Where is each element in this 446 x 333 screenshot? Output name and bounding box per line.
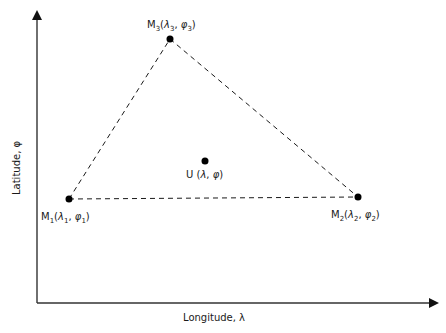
- x-axis-label: Longitude, λ: [183, 312, 245, 323]
- y-axis-label: Latitude, φ: [11, 140, 22, 195]
- label-m2: M2(λ2, φ2): [331, 209, 380, 223]
- edge-m1-m2: [69, 197, 358, 199]
- diagram-canvas: M3(λ3, φ3) M1(λ1, φ1) M2(λ2, φ2) U (λ, φ…: [0, 0, 446, 333]
- label-u: U (λ, φ): [186, 169, 223, 180]
- label-m1: M1(λ1, φ1): [41, 211, 90, 225]
- point-m3: [167, 36, 174, 43]
- label-m3: M3(λ3, φ3): [147, 19, 196, 33]
- point-m1: [66, 196, 73, 203]
- edge-m1-m3: [69, 39, 170, 199]
- point-u: [202, 158, 209, 165]
- point-m2: [355, 194, 362, 201]
